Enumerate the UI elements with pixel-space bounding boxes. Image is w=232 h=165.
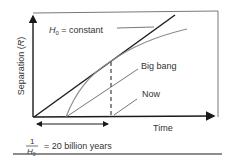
h0-constant-label: H0 = constant [49, 25, 104, 36]
decelerating-expansion-curve [66, 29, 187, 117]
now-label: Now [142, 89, 161, 99]
big-bang-pointer [66, 69, 138, 117]
x-axis-label: Time [153, 123, 173, 133]
h0-constant-pointer [117, 27, 154, 28]
hubble-diagram: Separation (R) H0 = constant Big bang No… [0, 0, 232, 165]
y-axis-label: Separation (R) [16, 37, 26, 96]
fraction-denominator: H0 [27, 147, 36, 157]
big-bang-label: Big bang [141, 61, 177, 71]
hubble-time-value: = 20 billion years [44, 141, 112, 151]
now-pointer [114, 99, 137, 115]
x-axis [33, 116, 214, 117]
fraction-numerator: 1 [30, 137, 35, 146]
